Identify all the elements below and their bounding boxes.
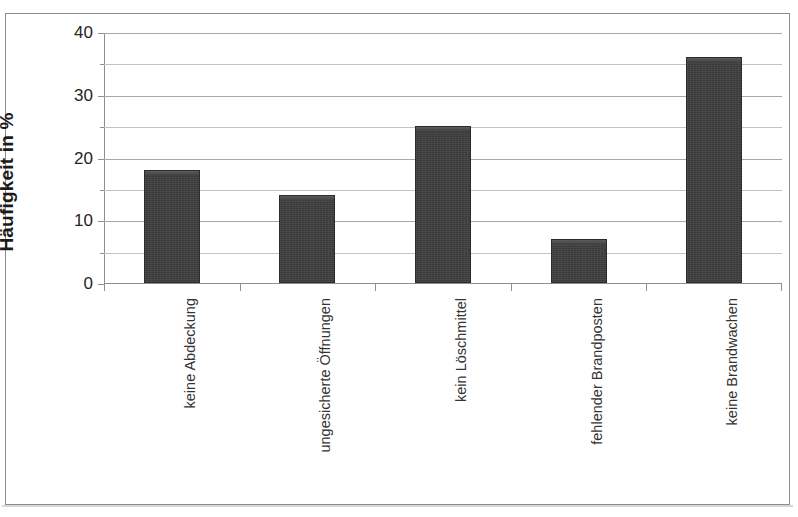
x-axis-tick — [104, 284, 105, 291]
x-axis-categories: keine Abdeckungungesicherte Öffnungenkei… — [104, 284, 782, 499]
x-axis-label: kein Löschmittel — [452, 298, 470, 498]
y-tick-30 — [98, 96, 104, 97]
y-tick-label-40: 40 — [74, 23, 93, 43]
bar — [415, 126, 471, 283]
y-tick-20 — [98, 159, 104, 160]
y-tick-minor-35 — [100, 64, 104, 65]
y-axis-title: Häufigkeit in % — [0, 62, 24, 302]
x-axis-tick — [375, 284, 376, 291]
x-axis-label: keine Abdeckung — [181, 298, 199, 498]
y-tick-minor-25 — [100, 127, 104, 128]
bar — [279, 195, 335, 283]
chart-screenshot: Häufigkeit in % 010203040 keine Abdeckun… — [0, 0, 798, 517]
y-tick-40 — [98, 33, 104, 34]
gridline-minor-35 — [104, 64, 782, 65]
x-axis-label: ungesicherte Öffnungen — [316, 298, 334, 498]
gridline-40 — [104, 33, 782, 34]
y-tick-label-0: 0 — [84, 274, 93, 294]
y-tick-minor-15 — [100, 190, 104, 191]
plot-area: 010203040 — [104, 33, 782, 284]
gridline-30 — [104, 96, 782, 97]
x-axis-label: keine Brandwachen — [723, 298, 741, 498]
y-tick-10 — [98, 221, 104, 222]
y-tick-label-30: 30 — [74, 86, 93, 106]
y-tick-label-10: 10 — [74, 211, 93, 231]
x-axis-label: fehlender Brandposten — [588, 298, 606, 498]
y-tick-label-20: 20 — [74, 149, 93, 169]
y-tick-minor-5 — [100, 253, 104, 254]
figure-frame: Häufigkeit in % 010203040 keine Abdeckun… — [5, 13, 790, 505]
bar — [144, 170, 200, 283]
bar — [686, 57, 742, 283]
bar — [551, 239, 607, 283]
x-axis-tick — [646, 284, 647, 291]
x-axis-tick — [511, 284, 512, 291]
x-axis-tick — [240, 284, 241, 291]
x-axis-tick — [781, 284, 782, 291]
